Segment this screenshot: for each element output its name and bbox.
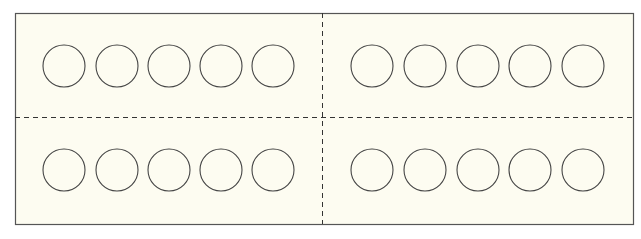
card-frame xyxy=(16,14,634,225)
diagram-canvas xyxy=(0,0,641,239)
